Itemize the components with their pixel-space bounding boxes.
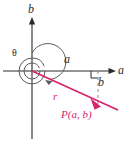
vertical-axis-arrowhead	[29, 17, 35, 25]
polar-coordinate-figure: b a a b θ r P(a, b)	[0, 0, 129, 141]
vertical-axis	[29, 17, 35, 139]
terminal-ray	[32, 71, 118, 110]
radius-line	[32, 71, 118, 110]
horizontal-axis-label: a	[118, 64, 124, 76]
vertical-axis-label: b	[28, 3, 34, 15]
right-angle-square	[91, 71, 98, 78]
horizontal-axis-arrowhead	[109, 68, 117, 74]
radius-label: r	[53, 91, 57, 102]
angle-spiral-arc	[19, 44, 66, 85]
horizontal-axis	[3, 68, 116, 74]
horizontal-segment-label: a	[64, 53, 70, 65]
vertical-segment-label: b	[98, 76, 104, 88]
point-label: P(a, b)	[61, 109, 92, 120]
angle-theta-label: θ	[12, 48, 17, 58]
right-angle-marker	[91, 71, 98, 78]
